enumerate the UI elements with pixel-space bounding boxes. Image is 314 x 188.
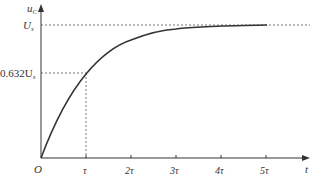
tick-label-5tau: 5τ [260, 165, 269, 176]
charging-curve [41, 25, 267, 158]
tick-label-tau: τ [83, 165, 87, 176]
rc-charging-curve: O τ 2τ 3τ 4τ 5τ t uC Us 0.632Us [0, 0, 314, 188]
us-label: Us [23, 19, 34, 33]
p632-label: 0.632Us [0, 67, 36, 81]
tick-label-3tau: 3τ [169, 165, 179, 176]
tick-label-4tau: 4τ [215, 165, 224, 176]
x-axis-label: t [305, 163, 309, 175]
x-axis-arrow-icon [302, 155, 310, 161]
tick-label-2tau: 2τ [125, 165, 134, 176]
y-axis-arrow-icon [38, 4, 44, 12]
origin-label: O [34, 163, 42, 175]
y-axis-label: uC [27, 2, 38, 16]
